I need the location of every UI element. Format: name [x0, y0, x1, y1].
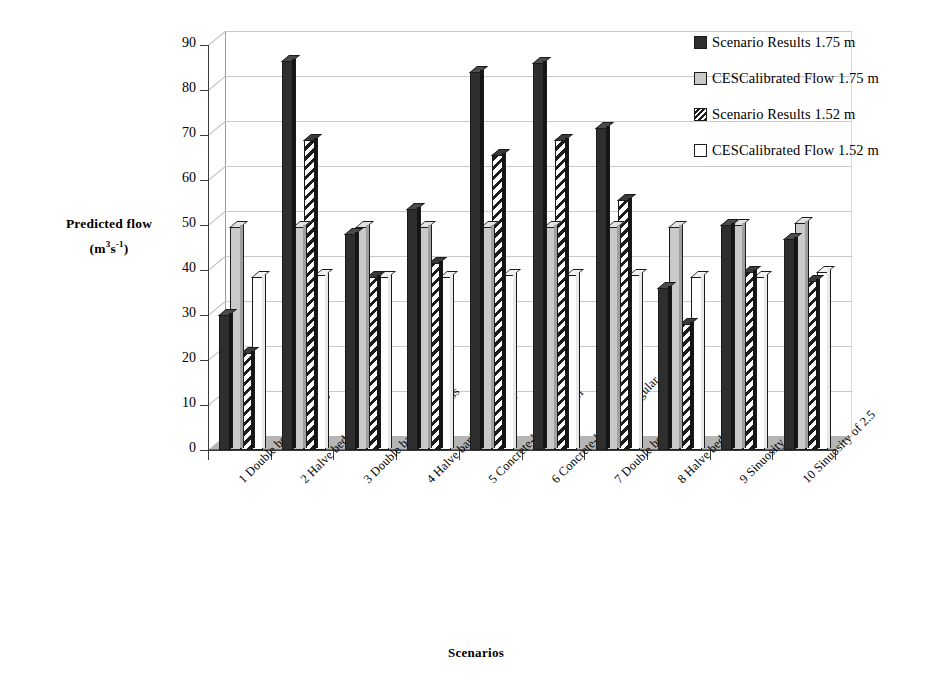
legend-item[interactable]: Scenario Results 1.75 m — [694, 26, 946, 58]
bar-side-face — [292, 59, 296, 448]
bar-side-face — [303, 225, 307, 448]
bar — [470, 72, 481, 450]
bar-side-face — [251, 351, 255, 448]
bar-side-face — [428, 225, 432, 448]
bar-side-face — [565, 138, 569, 449]
bar-top-face — [406, 203, 425, 210]
bar-chart-figure: Predicted flow (m3s-1) 01020304050607080… — [0, 0, 952, 688]
bar-side-face — [690, 322, 694, 448]
bar-side-face — [366, 225, 370, 448]
legend-label: Scenario Results 1.75 m — [712, 34, 855, 51]
bar — [219, 315, 230, 450]
bar-side-face — [240, 225, 244, 448]
bar — [533, 63, 544, 450]
bar-side-face — [731, 223, 735, 448]
bar-side-face — [554, 225, 558, 448]
bar-top-face — [616, 194, 635, 201]
bar-top-face — [815, 266, 834, 273]
bar-top-face — [281, 55, 300, 62]
bar-side-face — [576, 273, 580, 449]
bar-side-face — [827, 270, 831, 448]
legend-item[interactable]: CESCalibrated Flow 1.75 m — [694, 62, 946, 94]
bar — [721, 225, 732, 450]
bar-top-face — [594, 122, 613, 129]
bar-side-face — [502, 153, 506, 448]
bar-side-face — [606, 126, 610, 448]
chart-legend: Scenario Results 1.75 mCESCalibrated Flo… — [694, 26, 946, 170]
legend-swatch-solid-light — [694, 72, 707, 85]
bar-side-face — [742, 223, 746, 448]
bar-top-face — [690, 271, 709, 278]
bar-top-face — [554, 134, 573, 141]
bar-top-face — [229, 221, 248, 228]
bar-side-face — [513, 273, 517, 449]
bar-side-face — [753, 270, 757, 448]
bar-side-face — [388, 275, 392, 448]
bar-side-face — [764, 275, 768, 448]
x-axis-title: Scenarios — [0, 645, 952, 661]
bar-top-face — [668, 221, 687, 228]
bar-side-face — [314, 138, 318, 449]
bar-side-face — [668, 286, 672, 448]
bar-side-face — [679, 225, 683, 448]
bar-top-face — [491, 149, 510, 156]
bar-side-face — [439, 261, 443, 448]
bar-side-face — [355, 232, 359, 448]
bar-top-face — [469, 66, 488, 73]
bar-side-face — [639, 273, 643, 449]
bar-side-face — [262, 275, 266, 448]
bar — [407, 209, 418, 450]
bar — [596, 128, 607, 450]
bar-side-face — [816, 279, 820, 448]
bar-side-face — [450, 275, 454, 448]
bar-top-face — [793, 217, 812, 224]
bar — [282, 61, 293, 450]
bar-side-face — [543, 61, 547, 448]
bar-top-face — [532, 57, 551, 64]
legend-item[interactable]: Scenario Results 1.52 m — [694, 98, 946, 130]
bar-side-face — [628, 198, 632, 448]
legend-swatch-hatched — [694, 108, 707, 121]
bar-side-face — [480, 70, 484, 448]
bar-side-face — [617, 225, 621, 448]
legend-item[interactable]: CESCalibrated Flow 1.52 m — [694, 134, 946, 166]
bar-side-face — [794, 237, 798, 449]
bar-side-face — [417, 207, 421, 448]
bar-side-face — [701, 275, 705, 448]
legend-label: CESCalibrated Flow 1.52 m — [712, 142, 879, 159]
bar-side-face — [491, 225, 495, 448]
bar — [784, 239, 795, 451]
legend-label: CESCalibrated Flow 1.75 m — [712, 70, 879, 87]
legend-label: Scenario Results 1.52 m — [712, 106, 855, 123]
legend-swatch-solid-dark — [694, 36, 707, 49]
bar-top-face — [303, 134, 322, 141]
bar-side-face — [377, 275, 381, 448]
bar-side-face — [325, 273, 329, 449]
bar-side-face — [229, 313, 233, 448]
legend-swatch-open-white — [694, 144, 707, 157]
bar — [345, 234, 356, 450]
bar-side-face — [805, 221, 809, 448]
bar — [658, 288, 669, 450]
bar-top-face — [251, 271, 270, 278]
